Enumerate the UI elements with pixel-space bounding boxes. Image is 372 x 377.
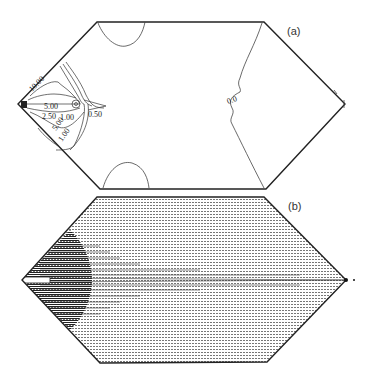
panel-b-label: (b) xyxy=(288,200,301,212)
inlet-channel xyxy=(22,277,50,283)
outlet-point xyxy=(344,278,348,282)
inlet-dark-block xyxy=(21,101,27,108)
panel-b-vector-field: (b) xyxy=(20,195,355,365)
contour-right-notch xyxy=(334,90,344,108)
contour-bottom-dome xyxy=(103,162,149,188)
contour-label: 0.50 xyxy=(88,110,102,119)
contour-zero-line xyxy=(230,23,264,188)
outlet-marker-dot xyxy=(353,279,355,281)
contour-label: 5.00 xyxy=(44,102,58,111)
contour-top-dome xyxy=(98,22,145,46)
contour-label: 0.0 xyxy=(226,94,238,106)
panel-a-contour-plot: 5.00 2.50 1.00 0.50 5.00 1.00 0.0 10.00 … xyxy=(18,22,345,189)
panel-a-label: (a) xyxy=(287,25,300,37)
panel-a-domain-outline xyxy=(18,22,345,189)
contour-labels: 5.00 2.50 1.00 0.50 5.00 1.00 0.0 10.00 xyxy=(27,74,238,143)
contour-label: 2.50 xyxy=(42,112,56,121)
figure: 5.00 2.50 1.00 0.50 5.00 1.00 0.0 10.00 … xyxy=(0,0,372,377)
